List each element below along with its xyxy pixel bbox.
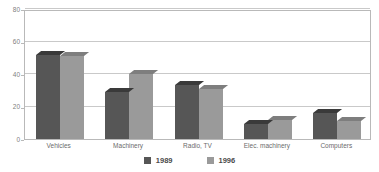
bar-face <box>337 121 361 139</box>
bar-top-face <box>36 51 65 55</box>
bar-face <box>199 89 223 139</box>
legend-swatch-icon <box>207 157 214 164</box>
bars-layer <box>25 11 370 139</box>
bar-face <box>60 56 84 139</box>
bar-top-face <box>129 70 158 74</box>
bar <box>129 74 153 139</box>
bar <box>337 121 361 139</box>
y-tick-mark <box>21 140 24 141</box>
bar-face <box>244 124 268 139</box>
bar <box>175 85 199 139</box>
bar-group <box>175 11 223 139</box>
bar-top-face <box>199 85 228 89</box>
bar <box>244 124 268 139</box>
y-tick-label: 60 <box>13 39 20 46</box>
bar-face <box>129 74 153 139</box>
y-tick-label: 20 <box>13 104 20 111</box>
bar <box>105 92 129 139</box>
bar <box>60 56 84 139</box>
bar-top-face <box>337 117 366 121</box>
chart-legend: 19891996 <box>0 157 379 165</box>
y-tick-label: 80 <box>13 7 20 14</box>
bar-face <box>36 55 60 140</box>
bar <box>199 89 223 139</box>
legend-swatch-icon <box>144 157 151 164</box>
x-tick-label: Vehicles <box>47 142 71 149</box>
y-axis: 020406080 <box>0 0 24 150</box>
x-tick-label: Elec. machinery <box>244 142 290 149</box>
bar <box>36 55 60 140</box>
legend-label: 1989 <box>156 157 173 165</box>
bar-face <box>313 113 337 139</box>
bar-group <box>244 11 292 139</box>
bar <box>313 113 337 139</box>
bar-top-face <box>175 81 204 85</box>
bar-top-face <box>105 88 134 92</box>
plot-area <box>24 10 371 140</box>
bar-face <box>105 92 129 139</box>
legend-label: 1996 <box>219 157 236 165</box>
bar-top-face <box>313 109 342 113</box>
legend-item[interactable]: 1996 <box>207 157 236 165</box>
y-tick-label: 40 <box>13 72 20 79</box>
bar-group <box>105 11 153 139</box>
x-tick-label: Radio, TV <box>183 142 212 149</box>
bar-chart: 020406080 VehiclesMachineryRadio, TVElec… <box>0 0 379 172</box>
y-tick-label: 0 <box>16 137 20 144</box>
bar-group <box>36 11 84 139</box>
legend-item[interactable]: 1989 <box>144 157 173 165</box>
bar-face <box>175 85 199 139</box>
gridline <box>25 8 370 9</box>
x-tick-label: Machinery <box>113 142 143 149</box>
x-axis: VehiclesMachineryRadio, TVElec. machiner… <box>24 142 371 154</box>
bar-face <box>268 120 292 139</box>
x-tick-label: Computers <box>320 142 352 149</box>
bar-top-face <box>60 52 89 56</box>
bar-group <box>313 11 361 139</box>
bar <box>268 120 292 139</box>
